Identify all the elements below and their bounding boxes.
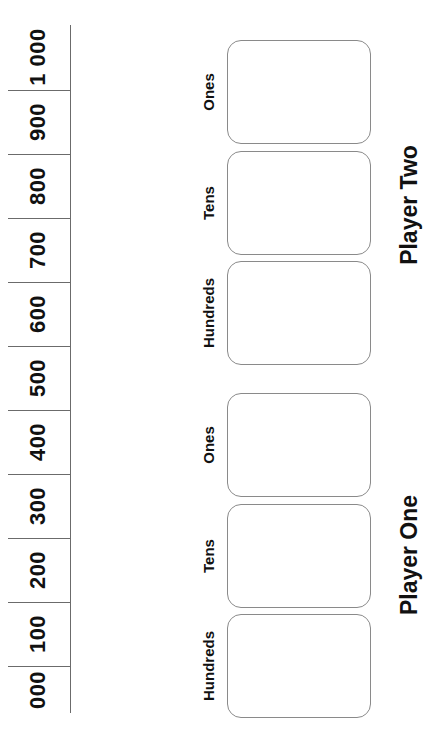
player-one-tens-label: Tens: [201, 539, 216, 573]
number-line-label: 100: [27, 615, 49, 653]
number-line-divider: [8, 538, 70, 539]
number-line-label: 1 000: [27, 28, 49, 86]
number-line-divider: [8, 602, 70, 603]
number-line-divider: [8, 90, 70, 91]
number-line-label: 300: [27, 487, 49, 525]
player-one-hundreds-label: Hundreds: [201, 631, 216, 701]
number-line-divider: [8, 218, 70, 219]
player-two-hundreds-label: Hundreds: [201, 278, 216, 348]
player-one-tens-box[interactable]: [227, 504, 371, 608]
number-line-label: 600: [27, 295, 49, 333]
number-line-label: 700: [27, 231, 49, 269]
player-two-label: Player Two: [398, 145, 421, 265]
number-line-label: 200: [27, 551, 49, 589]
number-line-label: 500: [27, 359, 49, 397]
number-line-divider: [8, 474, 70, 475]
player-two-hundreds-box[interactable]: [227, 261, 371, 365]
player-one-hundreds-box[interactable]: [227, 614, 371, 718]
number-line-divider: [8, 282, 70, 283]
number-line-axis: [70, 25, 71, 713]
number-line-label: 800: [27, 167, 49, 205]
number-line-label: 900: [27, 103, 49, 141]
number-line-label: 000: [27, 671, 49, 709]
number-line-divider: [8, 154, 70, 155]
player-one-label: Player One: [398, 495, 421, 615]
number-line-label: 400: [27, 423, 49, 461]
number-line-divider: [8, 410, 70, 411]
player-two-ones-box[interactable]: [227, 40, 371, 144]
player-one-ones-box[interactable]: [227, 393, 371, 497]
player-two-tens-box[interactable]: [227, 151, 371, 255]
player-two-ones-label: Ones: [201, 73, 216, 111]
number-line-divider: [8, 666, 70, 667]
number-line-divider: [8, 346, 70, 347]
player-one-ones-label: Ones: [201, 426, 216, 464]
player-two-tens-label: Tens: [201, 186, 216, 220]
